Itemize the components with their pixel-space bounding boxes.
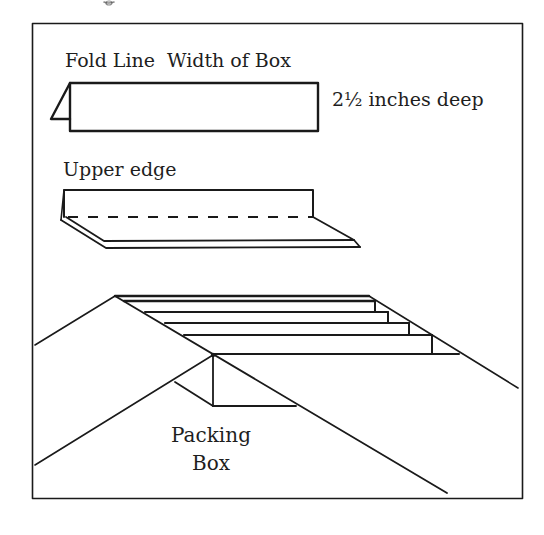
packing-label: Packing [171,423,251,447]
folded-flap-inner [66,217,354,241]
roof-panel: Packing Box [35,296,518,493]
lower-roof-slope [35,355,213,465]
folded-strip-panel: Fold Line Width of Box 2½ inches deep [51,49,484,131]
packing-diagram: Fold Line Width of Box 2½ inches deep Up… [0,0,544,535]
roof-main-diagonal [115,296,447,493]
flap-right-edge [313,217,360,247]
stacked-strips [115,296,459,354]
fold-flap [51,83,70,119]
roof-left-slope [35,296,115,345]
packing-box [35,353,296,465]
strip-rectangle [70,83,318,131]
upper-edge-panel: Upper edge [61,158,360,248]
box-label: Box [192,451,231,475]
depth-label: 2½ inches deep [332,88,484,110]
width-of-box-label: Width of Box [167,49,291,71]
folded-flap-outer [61,220,360,248]
roof-right-slope [369,296,518,388]
clipped-heading-fragment [104,1,114,5]
fold-line-label: Fold Line [65,49,155,71]
upper-edge-outline [64,190,313,217]
upper-edge-label: Upper edge [63,158,177,180]
